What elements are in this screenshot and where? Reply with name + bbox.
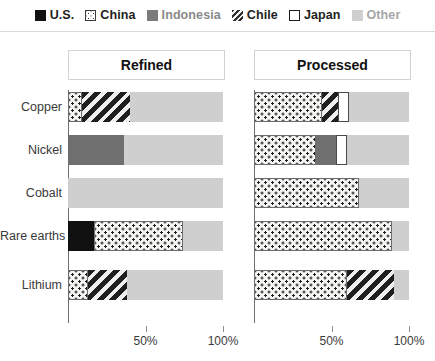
segment-china <box>254 270 347 300</box>
segment-indonesia <box>316 135 336 165</box>
segment-china <box>254 178 359 208</box>
legend-item-other: Other <box>352 9 401 22</box>
segment-chile <box>347 270 394 300</box>
segment-china <box>254 92 322 122</box>
bar-processed-lithium <box>254 270 409 300</box>
bar-refined-cobalt <box>68 178 223 208</box>
legend-item-chile: Chile <box>232 9 278 22</box>
segment-china <box>94 221 182 251</box>
segment-china <box>254 135 316 165</box>
category-label-lithium: Lithium <box>0 270 62 300</box>
segment-us <box>68 221 94 251</box>
chart-plot-area: CopperNickelCobaltRare earthsLithium <box>0 88 435 328</box>
legend-item-japan: Japan <box>289 9 341 22</box>
axis-tick-label: 50% <box>319 334 343 348</box>
segment-indonesia <box>68 135 124 165</box>
segment-china <box>254 221 392 251</box>
axis-tick-label: 100% <box>394 334 425 348</box>
axis-tick-label: 50% <box>133 334 157 348</box>
category-label-rare-earths: Rare earths <box>0 221 62 251</box>
category-label-nickel: Nickel <box>0 135 62 165</box>
legend-item-us: U.S. <box>35 9 75 22</box>
legend-label-us: U.S. <box>50 9 75 22</box>
segment-china <box>68 270 88 300</box>
bar-processed-rare-earths <box>254 221 409 251</box>
bar-processed-cobalt <box>254 178 409 208</box>
panel-title-processed: Processed <box>254 50 411 80</box>
bar-refined-nickel <box>68 135 223 165</box>
category-label-cobalt: Cobalt <box>0 178 62 208</box>
axis-tick <box>332 326 333 332</box>
legend-label-indonesia: Indonesia <box>162 9 221 22</box>
legend-label-other: Other <box>367 9 401 22</box>
bar-refined-rare-earths <box>68 221 223 251</box>
legend: U.S. China Indonesia Chile Japan Other <box>0 0 435 32</box>
segment-chile <box>88 270 127 300</box>
axis-tick <box>146 326 147 332</box>
bar-processed-nickel <box>254 135 409 165</box>
legend-label-china: China <box>100 9 135 22</box>
x-axis: 50%100%50%100% <box>0 326 435 361</box>
japan-swatch-icon <box>289 10 300 21</box>
bar-refined-lithium <box>68 270 223 300</box>
other-swatch-icon <box>352 10 363 21</box>
china-swatch-icon <box>85 10 96 21</box>
bar-refined-copper <box>68 92 223 122</box>
legend-label-chile: Chile <box>247 9 278 22</box>
segment-chile <box>82 92 130 122</box>
axis-tick <box>223 326 224 332</box>
axis-tick-label: 100% <box>208 334 239 348</box>
segment-japan <box>336 135 347 165</box>
panel-title-refined: Refined <box>68 50 225 80</box>
segment-chile <box>322 92 338 122</box>
chile-swatch-icon <box>232 10 243 21</box>
indonesia-swatch-icon <box>147 10 158 21</box>
category-label-copper: Copper <box>0 92 62 122</box>
axis-tick <box>409 326 410 332</box>
legend-item-indonesia: Indonesia <box>147 9 221 22</box>
us-swatch-icon <box>35 10 46 21</box>
segment-japan <box>338 92 349 122</box>
bar-processed-copper <box>254 92 409 122</box>
legend-label-japan: Japan <box>304 9 341 22</box>
legend-item-china: China <box>85 9 135 22</box>
segment-china <box>68 92 82 122</box>
